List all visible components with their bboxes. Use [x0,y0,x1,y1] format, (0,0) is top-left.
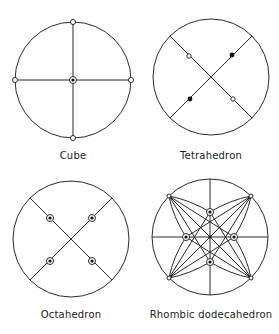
pole-dot-icon [71,78,74,81]
filled-pole-icon [230,53,235,58]
pole-dot-icon [90,216,93,219]
pole-dot-icon [232,235,235,238]
open-pole-icon [231,97,235,101]
open-pole-icon [187,54,191,58]
center-dot-icon [209,236,212,239]
rhombic-dodecahedron-projection [152,179,268,295]
pole-dot-icon [208,260,211,263]
octahedron-projection [13,181,129,297]
tetrahedron-projection [153,19,269,135]
cube-projection [13,20,134,141]
octahedron-label: Octahedron [41,309,102,320]
rhombic-dodecahedron-label: Rhombic dodecahedron [150,309,273,320]
zone-line [169,196,210,262]
open-pole-icon [129,78,134,83]
zone-line [210,196,251,262]
cube-label: Cube [60,150,87,161]
pole-dot-icon [184,235,187,238]
open-pole-icon [249,276,253,280]
pole-dot-icon [48,259,51,262]
zone-line [169,212,210,278]
pole-dot-icon [90,259,93,262]
open-pole-icon [167,194,171,198]
pole-dot-icon [48,216,51,219]
zone-line [186,237,251,278]
tetrahedron-label: Tetrahedron [180,150,242,161]
open-pole-icon [13,78,18,83]
open-pole-icon [71,20,76,25]
stereographic-projections [0,0,279,334]
open-pole-icon [249,194,253,198]
zone-line [186,196,251,237]
zone-line [169,237,234,278]
zone-line [169,196,234,237]
pole-dot-icon [208,210,211,213]
filled-pole-icon [188,97,193,102]
zone-line [210,212,251,278]
open-pole-icon [71,136,76,141]
open-pole-icon [167,276,171,280]
